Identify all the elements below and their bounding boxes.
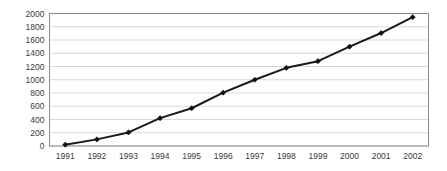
x-tick-label: 1993 [119,151,138,161]
y-tick-label: 600 [30,101,44,111]
y-tick-label: 800 [30,88,44,98]
y-tick-label: 1400 [26,48,45,58]
y-tick-label: 1600 [26,35,45,45]
line-chart: 0200400600800100012001400160018002000 19… [0,0,447,171]
x-tick-label: 2002 [403,151,422,161]
y-tick-label: 2000 [26,9,45,19]
x-tick-label: 1999 [308,151,327,161]
y-tick-label: 1000 [26,75,45,85]
x-tick-label: 1994 [151,151,170,161]
x-tick-label: 2000 [340,151,359,161]
x-tick-label: 1997 [245,151,264,161]
chart-canvas: 0200400600800100012001400160018002000 19… [0,0,447,171]
y-tick-label: 1800 [26,22,45,32]
y-tick-label: 1200 [26,62,45,72]
y-tick-label: 0 [40,141,45,151]
y-tick-label: 200 [30,128,44,138]
x-tick-label: 1991 [56,151,75,161]
y-tick-label: 400 [30,115,44,125]
x-tick-label: 1995 [182,151,201,161]
x-tick-label: 2001 [372,151,391,161]
x-tick-label: 1992 [87,151,106,161]
x-tick-label: 1996 [214,151,233,161]
x-tick-label: 1998 [277,151,296,161]
